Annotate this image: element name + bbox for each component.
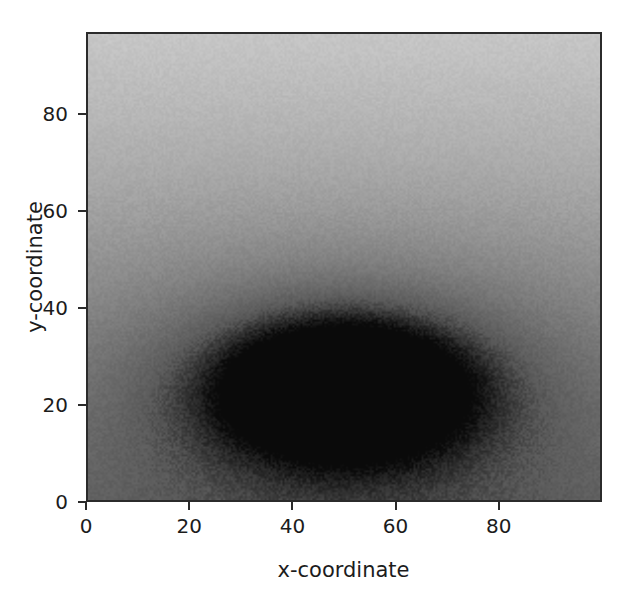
x-tick-mark [188, 502, 190, 510]
y-tick-label: 80 [0, 104, 68, 124]
x-tick-mark [85, 502, 87, 510]
y-tick-mark [78, 307, 86, 309]
y-tick-mark [78, 210, 86, 212]
y-tick-label: 20 [0, 395, 68, 415]
heatmap-plot-area [86, 32, 602, 502]
x-axis-label-text: x-coordinate [277, 558, 409, 582]
x-axis-label: x-coordinate [0, 558, 633, 582]
x-tick-label: 20 [176, 516, 201, 536]
y-tick-label: 0 [0, 492, 68, 512]
x-tick-label: 80 [486, 516, 511, 536]
x-tick-mark [291, 502, 293, 510]
y-tick-mark [78, 113, 86, 115]
y-axis-label-text: y-coordinate [23, 201, 47, 333]
x-tick-label: 40 [280, 516, 305, 536]
y-axis-label: y-coordinate [23, 147, 47, 387]
x-tick-label: 0 [80, 516, 93, 536]
figure-canvas: 020406080 020406080 x-coordinate y-coord… [0, 0, 633, 611]
y-tick-mark [78, 404, 86, 406]
x-tick-label: 60 [383, 516, 408, 536]
y-tick-mark [78, 501, 86, 503]
heatmap-image [88, 34, 600, 500]
x-tick-mark [498, 502, 500, 510]
x-tick-mark [395, 502, 397, 510]
